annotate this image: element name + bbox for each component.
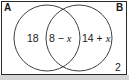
b-only-variable: x bbox=[105, 33, 111, 44]
intersection-expression: 8 − bbox=[49, 32, 67, 44]
venn-diagram: A B 18 8 − x 14 + x 2 bbox=[0, 0, 129, 80]
intersection-variable: x bbox=[66, 33, 72, 44]
set-a-label: A bbox=[4, 2, 11, 13]
bottom-shadow bbox=[0, 75, 129, 80]
region-outside: 2 bbox=[115, 61, 121, 73]
region-b-only: 14 + x bbox=[82, 32, 111, 44]
region-intersection: 8 − x bbox=[49, 32, 72, 44]
region-a-only: 18 bbox=[27, 32, 39, 44]
set-b-label: B bbox=[116, 2, 123, 13]
b-only-expression: 14 + bbox=[82, 32, 106, 44]
